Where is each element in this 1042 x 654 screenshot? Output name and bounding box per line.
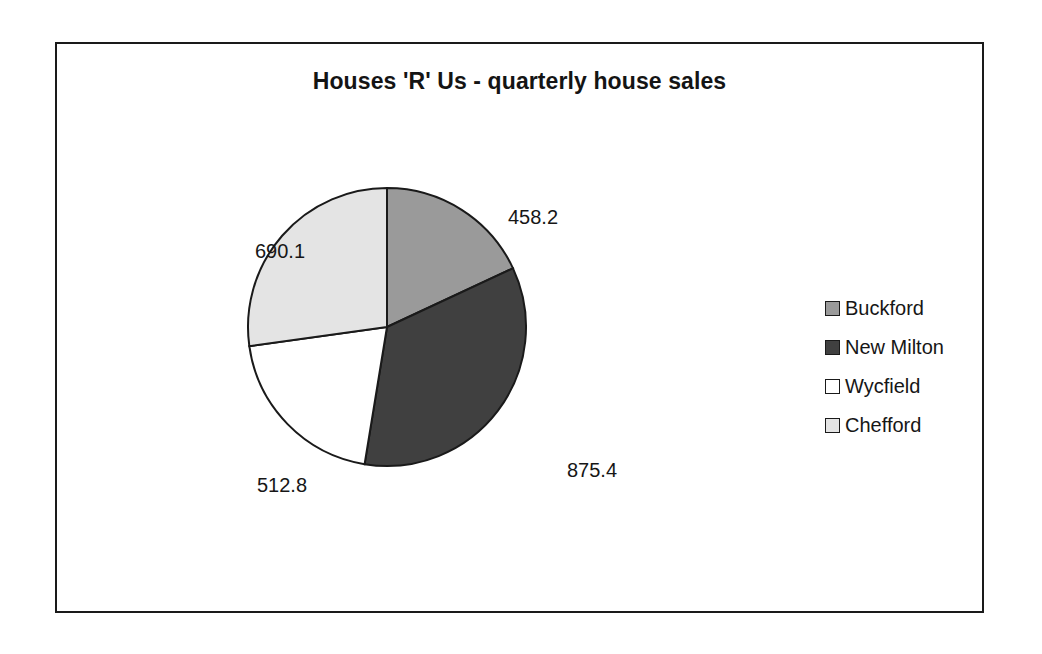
legend-swatch-icon	[825, 301, 840, 316]
legend-swatch-icon	[825, 379, 840, 394]
legend-item-wycfield[interactable]: Wycfield	[825, 367, 985, 406]
data-label-new-milton: 875.4	[567, 459, 617, 482]
legend-item-label: Wycfield	[845, 375, 920, 398]
legend-item-chefford[interactable]: Chefford	[825, 406, 985, 445]
data-label-wycfield: 512.8	[257, 474, 307, 497]
legend-item-label: New Milton	[845, 336, 944, 359]
legend-item-new-milton[interactable]: New Milton	[825, 328, 985, 367]
data-label-chefford: 690.1	[255, 240, 305, 263]
data-label-buckford: 458.2	[508, 206, 558, 229]
legend-swatch-icon	[825, 418, 840, 433]
pie-slice-chefford[interactable]	[248, 188, 387, 346]
legend-item-label: Chefford	[845, 414, 921, 437]
pie-chart-svg	[242, 182, 532, 472]
legend-item-label: Buckford	[845, 297, 924, 320]
chart-legend: Buckford New Milton Wycfield Chefford	[825, 289, 985, 445]
legend-item-buckford[interactable]: Buckford	[825, 289, 985, 328]
pie-slice-wycfield[interactable]	[249, 327, 387, 464]
legend-swatch-icon	[825, 340, 840, 355]
chart-frame: Houses 'R' Us - quarterly house sales 45…	[55, 42, 984, 613]
